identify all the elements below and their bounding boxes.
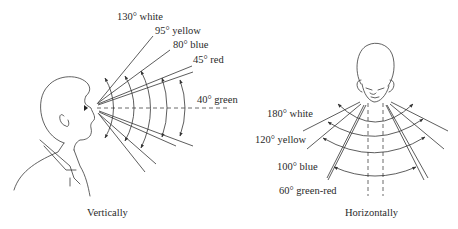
vertical-panel: 130° white 95° yellow 80° blue 45° red 4… <box>14 11 238 218</box>
caption-horizontally: Horizontally <box>345 207 399 218</box>
horizontal-panel: 180° white 120° yellow 100° blue 60° gre… <box>255 43 448 218</box>
label-40-green: 40° green <box>197 94 238 105</box>
label-60-green-red: 60° green-red <box>279 185 337 196</box>
label-100-blue: 100° blue <box>277 161 318 172</box>
label-80-blue: 80° blue <box>173 39 209 50</box>
vertical-field-rays <box>97 36 193 172</box>
label-95-yellow: 95° yellow <box>155 25 201 36</box>
label-45-red: 45° red <box>193 54 224 65</box>
horizontal-field-rays <box>303 102 448 180</box>
label-120-yellow: 120° yellow <box>255 134 307 145</box>
person-head-front-icon <box>357 43 394 102</box>
person-side-profile-icon <box>14 77 95 196</box>
caption-vertically: Vertically <box>87 207 129 218</box>
label-130-white: 130° white <box>117 11 163 22</box>
label-180-white: 180° white <box>267 108 313 119</box>
visual-field-diagram: 130° white 95° yellow 80° blue 45° red 4… <box>0 0 458 229</box>
horizontal-field-arcs <box>323 104 425 176</box>
